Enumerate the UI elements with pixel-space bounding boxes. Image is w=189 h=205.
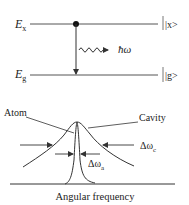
photon-wavy-arrow: [79, 48, 108, 52]
atom-linewidth-label: Δωa: [88, 158, 105, 172]
lower-level-label: Eg: [14, 67, 26, 83]
x-axis-label: Angular frequency: [55, 191, 135, 202]
cavity-linewidth-label: Δωc: [140, 140, 156, 154]
cavity-pointer-line: [88, 122, 138, 128]
atom-label: Atom: [4, 107, 27, 118]
energy-level-diagram: Ex |x> ħω Eg |g>: [14, 16, 178, 83]
upper-state-ket: |x>: [165, 19, 178, 30]
upper-level-label: Ex: [14, 17, 26, 33]
cavity-label: Cavity: [139, 112, 166, 123]
lower-state-ket: |g>: [165, 70, 178, 81]
diagram-canvas: Ex |x> ħω Eg |g> Atom Cavity Δωc Δωa An: [0, 0, 189, 205]
photon-energy-label: ħω: [118, 43, 132, 55]
spectrum-diagram: Atom Cavity Δωc Δωa Angular frequency: [4, 107, 175, 202]
